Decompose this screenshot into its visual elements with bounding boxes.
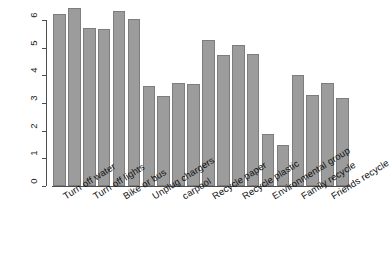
y-axis-tick [42,103,46,104]
bar [232,45,245,186]
y-axis-tick [42,186,46,187]
y-axis-tick-label: 3 [28,96,39,110]
y-axis-tick-label: 6 [28,13,39,27]
x-axis-labels: Turn off waterTurn off lightsBike or bus… [0,190,371,264]
bar [53,14,66,186]
y-axis-spine [46,20,47,186]
bar [83,28,96,186]
y-axis-tick [42,131,46,132]
y-axis-tick-label: 1 [28,151,39,165]
y-axis-tick-label: 2 [28,123,39,137]
bar [68,8,81,186]
bar [217,55,230,186]
y-axis-tick-label: 4 [28,68,39,82]
y-axis-tick [42,48,46,49]
bar [113,11,126,186]
y-axis-tick-label: 5 [28,40,39,54]
y-axis-tick [42,75,46,76]
y-axis-tick [42,20,46,21]
y-axis-tick [42,158,46,159]
